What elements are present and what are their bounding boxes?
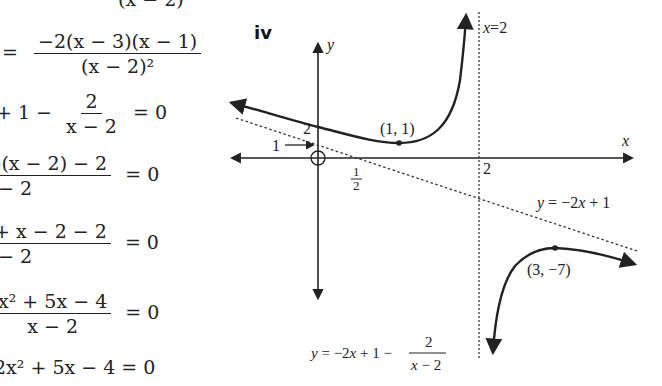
- vertical-asymptote-label: x=2: [482, 19, 507, 36]
- oblique-asymptote: [236, 118, 637, 251]
- local-maximum-point: [552, 245, 558, 251]
- tick-2-label: 2: [483, 160, 491, 177]
- function-graph: y x 2 1 1 2 2 x=2 (1, 1) (3, −7) y = −2x…: [0, 0, 662, 386]
- y-axis-label: y: [325, 36, 335, 54]
- local-minimum-point: [396, 140, 402, 146]
- function-label-denominator: x − 2: [410, 357, 441, 373]
- oblique-asymptote-label: y = −2x + 1: [535, 194, 610, 212]
- half-denominator: 2: [353, 178, 360, 193]
- function-label-numerator: 2: [425, 334, 433, 350]
- y-intercept-2-label: 2: [303, 120, 311, 137]
- half-numerator: 1: [353, 164, 360, 179]
- asymptote-intercept-1-label: 1: [272, 137, 280, 154]
- max-point-label: (3, −7): [527, 261, 571, 279]
- x-axis-label: x: [621, 132, 629, 149]
- min-point-label: (1, 1): [380, 120, 415, 138]
- function-label: y = −2x + 1 −: [309, 345, 392, 361]
- curve-left-branch: [232, 16, 466, 143]
